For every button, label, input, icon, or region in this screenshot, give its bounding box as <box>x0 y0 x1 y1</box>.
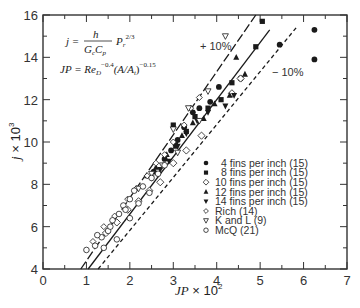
y-tick-label: 12 <box>24 93 38 108</box>
triangle-down-open-marker-icon <box>222 34 228 40</box>
x-tick-label: 1 <box>83 273 90 288</box>
circle-open-marker-icon <box>116 211 122 217</box>
triangle-up-filled-marker-icon <box>242 71 248 77</box>
triangle-down-filled-marker-icon <box>204 199 209 204</box>
x-axis-title: JP × 102 <box>175 282 223 298</box>
formula-j-lhs: j = <box>64 35 79 47</box>
circle-open-marker-icon <box>94 232 100 238</box>
square-filled-marker-icon <box>253 44 258 49</box>
circle-filled-marker-icon <box>196 105 202 111</box>
circle-open-marker-icon <box>101 245 107 251</box>
triangle-up-filled-marker-icon <box>190 120 196 126</box>
triangle-down-open-marker-icon <box>204 219 209 223</box>
x-tick-label: 0 <box>39 273 46 288</box>
plus-10-label: + 10% <box>200 40 232 52</box>
square-filled-marker-icon <box>205 106 210 111</box>
diamond-open-marker-icon <box>183 147 190 154</box>
circle-filled-marker-icon <box>277 42 283 48</box>
triangle-up-filled-marker-icon <box>204 189 209 194</box>
circle-open-marker-icon <box>155 171 161 177</box>
circle-open-marker-icon <box>147 190 153 196</box>
y-tick-label: 10 <box>24 135 38 150</box>
x-tick-label: 6 <box>300 273 307 288</box>
circle-open-marker-icon <box>114 237 120 243</box>
circle-open-marker-icon <box>204 228 208 232</box>
formula-j-rhs: Pr2/3 <box>115 33 135 49</box>
diamond-open-small-marker-icon <box>153 160 159 166</box>
circle-open-marker-icon <box>149 175 155 181</box>
circle-filled-marker-icon <box>312 27 318 33</box>
formula-j-numerator: h <box>93 28 99 40</box>
circle-open-marker-icon <box>84 247 90 253</box>
y-tick-label: 8 <box>31 177 38 192</box>
circle-open-marker-icon <box>136 201 142 207</box>
circle-open-marker-icon <box>127 196 133 202</box>
formula-jp: JP = ReD−0.4(A/At)−0.15 <box>60 61 156 77</box>
diamond-open-marker-icon <box>203 179 209 185</box>
x-tick-label: 7 <box>343 273 350 288</box>
circle-filled-marker-icon <box>207 99 213 105</box>
series-mcq-21- <box>84 162 168 252</box>
circle-open-marker-icon <box>127 215 133 221</box>
circle-open-marker-icon <box>110 218 116 224</box>
square-filled-marker-icon <box>218 97 223 102</box>
legend: 4 fins per inch (15)8 fins per inch (15)… <box>203 157 308 236</box>
diamond-open-marker-icon <box>157 179 164 186</box>
y-tick-label: 6 <box>31 220 38 235</box>
series-k-and-l-9- <box>136 34 229 192</box>
formula-j: j = h GcCp Pr2/3 <box>64 28 135 57</box>
circle-open-marker-icon <box>162 162 168 168</box>
square-filled-marker-icon <box>229 80 234 85</box>
circle-filled-marker-icon <box>312 57 318 63</box>
triangle-up-filled-marker-icon <box>233 54 239 60</box>
x-tick-label: 2 <box>126 273 133 288</box>
legend-label: McQ (21) <box>215 224 259 236</box>
formula-jp-text: JP = ReD−0.4(A/At)−0.15 <box>60 61 156 77</box>
minus-10-label: − 10% <box>272 66 304 78</box>
circle-open-marker-icon <box>108 224 114 230</box>
square-filled-marker-icon <box>260 19 265 24</box>
triangle-down-filled-marker-icon <box>222 104 228 110</box>
legend-item: McQ (21) <box>204 224 259 236</box>
square-filled-marker-icon <box>204 171 208 175</box>
chart: 0123456746810121416 4 fins per inch (15)… <box>0 0 360 308</box>
circle-filled-marker-icon <box>204 161 209 166</box>
fit-lines <box>81 15 296 269</box>
diamond-open-small-marker-icon <box>204 209 209 214</box>
y-tick-label: 4 <box>31 262 38 277</box>
circle-open-marker-icon <box>123 207 129 213</box>
circle-open-marker-icon <box>140 184 146 190</box>
y-tick-label: 16 <box>24 8 38 23</box>
y-tick-label: 14 <box>24 50 38 65</box>
formula-j-den: GcCp <box>84 43 106 57</box>
circle-open-marker-icon <box>131 188 137 194</box>
circle-filled-marker-icon <box>216 84 222 90</box>
circle-open-marker-icon <box>92 243 98 249</box>
x-tick-label: 5 <box>257 273 264 288</box>
data-points <box>84 19 318 253</box>
y-axis-title: j × 103 <box>7 122 23 162</box>
triangle-down-open-marker-icon <box>205 89 211 95</box>
triangle-down-open-marker-icon <box>170 127 176 133</box>
diamond-open-marker-icon <box>198 132 205 139</box>
